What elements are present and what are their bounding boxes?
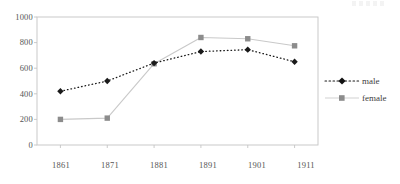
plot-frame: [37, 17, 318, 145]
data-point-male: [198, 48, 204, 54]
data-point-female: [105, 115, 110, 120]
series-line-male: [60, 50, 294, 92]
legend-item-female: female: [324, 91, 396, 105]
legend-label-female: female: [362, 91, 386, 105]
legend-label-male: male: [362, 74, 380, 88]
legend: male female: [324, 74, 396, 110]
data-point-male: [245, 46, 251, 52]
female-legend-swatch-icon: [324, 91, 360, 105]
data-point-male: [104, 78, 110, 84]
male-legend-swatch-icon: [324, 74, 360, 88]
data-point-female: [198, 35, 203, 40]
legend-item-male: male: [324, 74, 396, 88]
data-point-female: [292, 43, 297, 48]
data-point-female: [58, 117, 63, 122]
data-point-female: [245, 36, 250, 41]
data-point-male: [291, 59, 297, 65]
chart-container: 1000 800 600 400 200 0 1861 1871 1881 18…: [0, 0, 400, 184]
series-line-female: [60, 37, 294, 119]
data-point-male: [57, 88, 63, 94]
